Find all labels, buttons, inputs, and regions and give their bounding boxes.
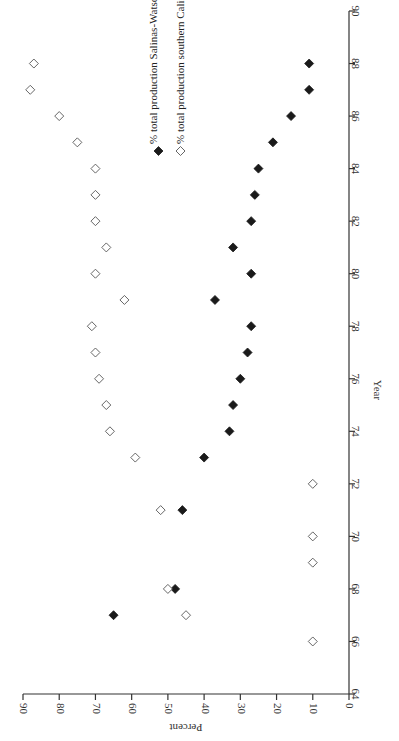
year-ticks: 6466687072747678808284868890 bbox=[349, 6, 362, 701]
year-tick-label: 82 bbox=[350, 216, 362, 227]
legend-label-salinas: % total production Salinas-Watsonville bbox=[147, 0, 159, 144]
percent-tick-label: 30 bbox=[236, 703, 248, 715]
open-diamond-marker bbox=[120, 295, 129, 304]
open-diamond-marker bbox=[102, 243, 111, 252]
year-tick-label: 76 bbox=[350, 373, 362, 385]
year-tick-label: 68 bbox=[350, 583, 362, 595]
year-tick-label: 84 bbox=[350, 163, 362, 175]
legend-item-southern-california: % total production southern California bbox=[174, 0, 186, 156]
filled-diamond-marker bbox=[210, 295, 219, 304]
percent-tick-label: 0 bbox=[344, 703, 356, 709]
filled-diamond-marker bbox=[109, 611, 118, 620]
percent-axis-title: Percent bbox=[170, 722, 203, 734]
filled-diamond-marker bbox=[247, 322, 256, 331]
percent-tick-label: 40 bbox=[200, 703, 212, 715]
open-diamond-marker bbox=[156, 506, 165, 515]
year-tick-label: 78 bbox=[350, 321, 362, 333]
axes: 6466687072747678808284868890 01020304050… bbox=[18, 6, 384, 735]
filled-diamond-marker bbox=[229, 243, 238, 252]
year-tick-label: 72 bbox=[350, 478, 362, 489]
open-diamond-marker bbox=[91, 269, 100, 278]
percent-tick-label: 90 bbox=[18, 703, 30, 715]
year-tick-label: 70 bbox=[350, 531, 362, 543]
percent-ticks: 0102030405060708090 bbox=[18, 694, 356, 715]
open-diamond-marker bbox=[308, 558, 317, 567]
year-tick-label: 86 bbox=[350, 111, 362, 123]
year-tick-label: 64 bbox=[350, 689, 362, 701]
year-tick-label: 88 bbox=[350, 58, 362, 70]
filled-diamond-marker bbox=[250, 190, 259, 199]
percent-tick-label: 70 bbox=[91, 703, 103, 715]
percent-tick-label: 10 bbox=[308, 703, 320, 715]
open-diamond-marker bbox=[91, 217, 100, 226]
open-diamond-marker bbox=[91, 164, 100, 173]
data-points bbox=[26, 59, 318, 646]
year-tick-label: 90 bbox=[350, 6, 362, 18]
percent-tick-label: 20 bbox=[272, 703, 284, 715]
filled-diamond-icon bbox=[154, 147, 163, 156]
open-diamond-marker bbox=[131, 453, 140, 462]
filled-diamond-marker bbox=[200, 453, 209, 462]
open-diamond-icon bbox=[176, 147, 185, 156]
year-tick-label: 66 bbox=[350, 636, 362, 648]
filled-diamond-marker bbox=[178, 506, 187, 515]
open-diamond-marker bbox=[87, 322, 96, 331]
filled-diamond-marker bbox=[225, 427, 234, 436]
open-diamond-marker bbox=[105, 427, 114, 436]
percent-tick-label: 80 bbox=[55, 703, 67, 715]
filled-diamond-marker bbox=[229, 401, 238, 410]
legend-item-salinas: % total production Salinas-Watsonville bbox=[147, 0, 163, 156]
open-diamond-marker bbox=[26, 85, 35, 94]
scatter-chart: 6466687072747678808284868890 01020304050… bbox=[0, 0, 399, 741]
filled-diamond-marker bbox=[247, 217, 256, 226]
filled-diamond-marker bbox=[268, 138, 277, 147]
filled-diamond-marker bbox=[243, 348, 252, 357]
open-diamond-marker bbox=[55, 112, 64, 121]
open-diamond-marker bbox=[163, 584, 172, 593]
filled-diamond-marker bbox=[305, 59, 314, 68]
legend-label-southern-california: % total production southern California bbox=[174, 0, 186, 144]
filled-diamond-marker bbox=[305, 85, 314, 94]
open-diamond-marker bbox=[91, 190, 100, 199]
year-tick-label: 80 bbox=[350, 268, 362, 280]
year-tick-label: 74 bbox=[350, 426, 362, 438]
filled-diamond-marker bbox=[287, 112, 296, 121]
open-diamond-marker bbox=[29, 59, 38, 68]
open-diamond-marker bbox=[102, 401, 111, 410]
open-diamond-marker bbox=[91, 348, 100, 357]
open-diamond-marker bbox=[182, 611, 191, 620]
open-diamond-marker bbox=[308, 637, 317, 646]
filled-diamond-marker bbox=[247, 269, 256, 278]
open-diamond-marker bbox=[308, 479, 317, 488]
legend: % total production Salinas-Watsonville %… bbox=[147, 0, 186, 156]
open-diamond-marker bbox=[308, 532, 317, 541]
open-diamond-marker bbox=[73, 138, 82, 147]
open-diamond-marker bbox=[95, 374, 104, 383]
filled-diamond-marker bbox=[254, 164, 263, 173]
percent-tick-label: 60 bbox=[127, 703, 139, 715]
percent-tick-label: 50 bbox=[163, 703, 175, 715]
year-axis-title: Year bbox=[372, 380, 384, 401]
filled-diamond-marker bbox=[236, 374, 245, 383]
